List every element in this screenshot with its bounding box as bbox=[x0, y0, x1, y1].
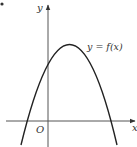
function-graph: y x O y = f(x) bbox=[0, 0, 137, 147]
y-axis-label: y bbox=[36, 2, 43, 13]
curve-label: y = f(x) bbox=[86, 41, 123, 52]
x-axis-label: x bbox=[132, 122, 137, 133]
bullet-dot bbox=[0, 2, 3, 5]
origin-label: O bbox=[36, 124, 44, 135]
